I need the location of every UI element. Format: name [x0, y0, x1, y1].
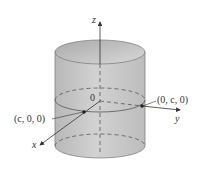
cylinder-diagram: z y x 0 (c, 0, 0) (0, c, 0) [0, 0, 199, 171]
diagram-canvas: z y x 0 (c, 0, 0) (0, c, 0) [0, 0, 199, 171]
origin-label: 0 [90, 92, 95, 103]
y-axis-label: y [174, 113, 180, 124]
x-axis-label: x [31, 139, 37, 150]
point-c00-label: (c, 0, 0) [14, 113, 45, 125]
z-axis-label: z [91, 14, 96, 25]
point-0c0-label: (0, c, 0) [157, 94, 188, 106]
